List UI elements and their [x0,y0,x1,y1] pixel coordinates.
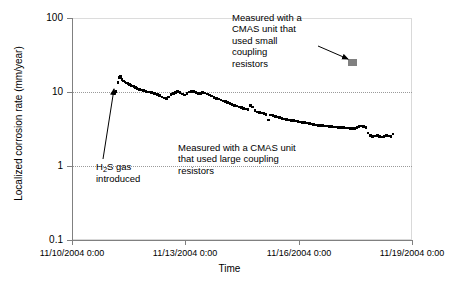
annotation-large-resistors-line3: resistors [178,165,348,176]
annotation-h2s-line2: introduced [96,173,176,184]
y-tick-mark-100 [67,18,72,19]
annotation-h2s: H2S gas introduced [96,161,176,185]
annotation-h2s-prefix: H [96,161,103,172]
x-tick-mark-2 [299,240,300,245]
annotation-small-resistors-line3: used small [232,35,322,46]
x-tick-mark-1 [185,240,186,245]
x-tick-mark-3 [412,240,413,245]
data-point-small-resistors [348,59,357,66]
annotation-h2s-line1: H2S gas [96,161,176,173]
y-axis-title: Localized corrosion rate (mm/year) [13,14,24,234]
annotation-large-resistors-line1: Measured with a CMAS unit [178,142,348,153]
y-tick-label-10: 10 [52,87,63,97]
y-axis-line [72,18,73,240]
annotation-h2s-suffix: S gas [107,161,131,172]
annotation-small-resistors-line4: coupling [232,46,322,57]
annotation-h2s-subscript: 2 [103,165,107,174]
y-tick-mark-10 [67,92,72,93]
annotation-small-resistors: Measured with a CMAS unit that used smal… [232,12,322,69]
x-tick-mark-0 [72,240,73,245]
x-axis-title: Time [0,263,459,274]
data-point [251,106,254,109]
data-point [390,135,393,138]
chart-container: 100 10 1 0.1 11/10/2004 0:00 11/13/2004 … [0,0,459,282]
gridline-10 [72,92,412,93]
y-tick-mark-1 [67,166,72,167]
annotation-small-resistors-line5: resistors [232,58,322,69]
annotation-small-resistors-line1: Measured with a [232,12,322,23]
data-point [115,90,118,93]
y-tick-label-100: 100 [46,13,63,23]
data-point [117,81,120,84]
data-point [365,126,368,129]
annotation-large-resistors: Measured with a CMAS unit that used larg… [178,142,348,176]
x-tick-label-0: 11/10/2004 0:00 [40,248,104,258]
x-tick-label-3: 11/19/2004 0:00 [380,248,444,258]
data-point [247,108,250,111]
x-tick-label-2: 11/16/2004 0:00 [267,248,331,258]
x-axis-line [72,240,413,241]
y-tick-label-1: 1 [57,161,63,171]
y-tick-label-0-1: 0.1 [49,235,63,245]
data-point [265,113,268,116]
annotation-large-resistors-line2: that used large coupling [178,153,348,164]
x-tick-label-1: 11/13/2004 0:00 [153,248,217,258]
data-point [267,119,270,122]
annotation-small-resistors-line2: CMAS unit that [232,23,322,34]
data-point [392,133,395,136]
